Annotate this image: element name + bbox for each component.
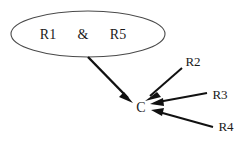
group-member-label-r5: R5 <box>110 27 126 42</box>
diagram-svg: R1 & R5 R2 R3 R4 C <box>0 0 249 146</box>
arrowhead-r4-to-c <box>151 108 164 116</box>
center-node-label-c[interactable]: C <box>136 100 145 115</box>
edge-line-r2-to-c <box>150 68 182 96</box>
arrowhead-group-to-c <box>119 92 133 103</box>
source-node-label-r4[interactable]: R4 <box>218 119 234 134</box>
edge-line-r4-to-c <box>159 112 213 127</box>
edge-line-group-to-c <box>88 57 128 98</box>
edge-group-to-c <box>88 57 133 103</box>
group-operator-label: & <box>78 27 89 42</box>
edge-line-r3-to-c <box>158 93 207 102</box>
group-member-label-r1: R1 <box>40 27 56 42</box>
source-node-label-r2[interactable]: R2 <box>185 54 200 69</box>
edge-r4-to-c <box>151 108 213 127</box>
edge-r2-to-c <box>145 68 182 101</box>
source-node-label-r3[interactable]: R3 <box>212 87 227 102</box>
diagram-canvas: R1 & R5 R2 R3 R4 C <box>0 0 249 146</box>
